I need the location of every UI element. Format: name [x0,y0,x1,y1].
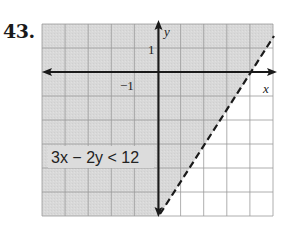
coordinate-graph: y x 1 −1 3x − 2y < 12 [0,0,288,234]
inequality-label: 3x − 2y < 12 [51,149,139,166]
y-tick-label-1: 1 [148,42,155,57]
y-axis-label: y [162,24,170,39]
x-tick-label-neg1: −1 [120,78,134,93]
x-axis-label: x [262,81,269,96]
